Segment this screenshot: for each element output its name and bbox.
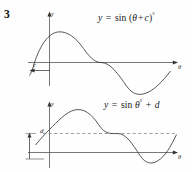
- eq2-shift: d: [155, 99, 160, 110]
- graph-2: [26, 102, 179, 169]
- graph-1-equation: y = sin (θ+c)°: [98, 13, 155, 23]
- graph-1-sine-curve: [30, 32, 171, 95]
- graph-1-x-axis-label: θ: [178, 64, 181, 70]
- graph-2-y-axis: [47, 102, 51, 169]
- graph-1-y-axis: [47, 12, 51, 87]
- graph-2-parameter-label-d: d: [40, 128, 44, 135]
- eq2-equals: =: [111, 99, 119, 110]
- graph-2-y-axis-label: y: [51, 101, 54, 107]
- eq1-function: sin: [115, 12, 127, 23]
- eq2-plus: +: [145, 99, 153, 110]
- eq1-equals: =: [105, 12, 113, 23]
- graphs-figure: [0, 0, 192, 172]
- graph-2-x-axis-label: θ: [178, 154, 181, 160]
- eq1-degree-symbol: °: [152, 12, 155, 18]
- graph-2-x-axis: [28, 150, 178, 154]
- eq2-degree-symbol: °: [140, 99, 143, 105]
- eq1-lhs: y: [98, 12, 102, 23]
- graph-2-equation: y = sin θ° + d: [104, 100, 160, 110]
- eq2-lhs: y: [104, 99, 108, 110]
- graph-1-parameter-label-c: c: [33, 62, 36, 69]
- graph-2-translation-arrow: [26, 133, 45, 160]
- graph-1-y-axis-label: y: [51, 11, 54, 17]
- graph-1: [28, 12, 178, 95]
- eq2-function: sin: [121, 99, 133, 110]
- exercise-figure-page: 3: [0, 0, 192, 172]
- graph-2-sine-curve: [36, 110, 177, 163]
- eq1-plus: +: [137, 12, 145, 23]
